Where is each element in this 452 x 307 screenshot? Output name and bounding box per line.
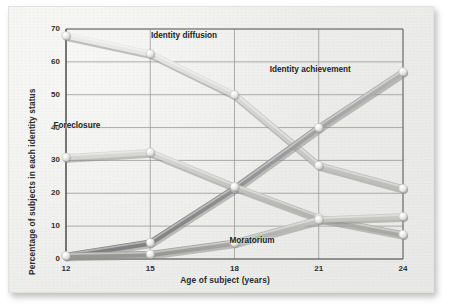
y-tick-60: 60 bbox=[9, 57, 60, 66]
series-label-foreclosure: Foreclosure bbox=[54, 121, 101, 130]
series-label-moratorium: Moratorium bbox=[229, 236, 274, 245]
x-tick-12: 12 bbox=[46, 264, 86, 273]
y-tick-40: 40 bbox=[9, 123, 60, 132]
y-tick-10: 10 bbox=[9, 221, 60, 230]
series-label-identity-diffusion: Identity diffusion bbox=[151, 31, 217, 40]
series-identity-diffusion bbox=[62, 31, 408, 193]
y-tick-20: 20 bbox=[9, 188, 60, 197]
y-tick-70: 70 bbox=[9, 24, 60, 33]
y-tick-0: 0 bbox=[9, 254, 60, 263]
chart-figure: Percentage of subjects in each identity … bbox=[8, 6, 434, 293]
y-tick-30: 30 bbox=[9, 155, 60, 164]
x-tick-18: 18 bbox=[215, 264, 255, 273]
x-tick-15: 15 bbox=[130, 264, 170, 273]
y-tick-50: 50 bbox=[9, 90, 60, 99]
series-label-identity-achievement: Identity achievement bbox=[270, 65, 351, 74]
x-tick-21: 21 bbox=[299, 264, 339, 273]
data-series-group bbox=[62, 31, 408, 261]
x-tick-24: 24 bbox=[383, 264, 423, 273]
plot-area bbox=[9, 7, 433, 292]
